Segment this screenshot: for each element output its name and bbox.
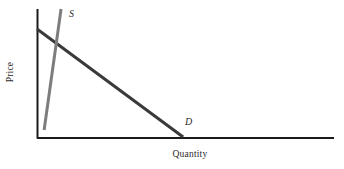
plot-canvas <box>0 0 344 169</box>
supply-demand-diagram: Price Quantity S D <box>0 0 344 169</box>
supply-curve-label: S <box>69 8 74 19</box>
demand-curve-label: D <box>185 116 192 127</box>
x-axis-title: Quantity <box>140 149 240 159</box>
y-axis-title: Price <box>5 50 15 94</box>
